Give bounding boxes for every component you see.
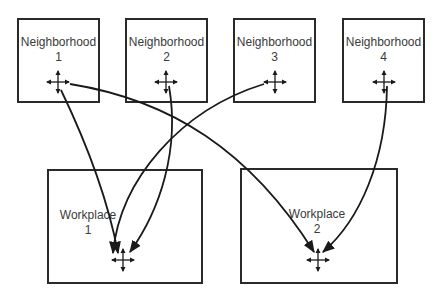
connection-n3-w1: [113, 84, 264, 253]
neighborhood-2-crosshair-icon: [154, 70, 178, 94]
connection-n4-w2: [323, 86, 387, 252]
workplace-2-crosshair-icon: [306, 248, 330, 272]
connection-n1-w1: [61, 90, 118, 253]
connection-n2-w1: [130, 86, 172, 252]
neighborhood-1-crosshair-icon: [46, 70, 70, 94]
neighborhood-3-crosshair-icon: [263, 70, 287, 94]
workplace-1-crosshair-icon: [111, 248, 135, 272]
connections-layer: [0, 0, 440, 294]
neighborhood-4-crosshair-icon: [372, 70, 396, 94]
connection-n1-w2: [70, 84, 314, 252]
